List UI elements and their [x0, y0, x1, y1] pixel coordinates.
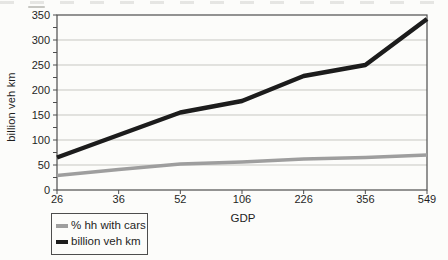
x-tick-label: 106	[233, 193, 251, 205]
y-axis-title: billion veh km	[5, 72, 17, 141]
y-tick-label: 350	[32, 9, 50, 21]
legend-item-hh-with-cars: % hh with cars	[56, 220, 144, 232]
legend-label-hh-with-cars: % hh with cars	[71, 220, 146, 232]
x-axis-title: GDP	[231, 212, 256, 224]
x-tick-label: 356	[356, 193, 374, 205]
chart-figure: 050100150200250300350263652106226356549 …	[0, 0, 448, 260]
y-tick-label: 200	[32, 84, 50, 96]
x-tick-label: 36	[113, 193, 125, 205]
y-tick-label: 300	[32, 34, 50, 46]
y-tick-label: 250	[32, 59, 50, 71]
legend-swatch-hh-with-cars	[56, 224, 68, 228]
x-tick-label: 549	[418, 193, 436, 205]
y-tick-label: 150	[32, 109, 50, 121]
x-tick-label: 26	[51, 193, 63, 205]
legend-label-billion-veh-km: billion veh km	[71, 236, 141, 248]
legend-swatch-billion-veh-km	[56, 240, 68, 244]
y-tick-label: 50	[38, 159, 50, 171]
x-tick-label: 226	[294, 193, 312, 205]
y-tick-label: 100	[32, 134, 50, 146]
x-tick-label: 52	[174, 193, 186, 205]
legend-item-billion-veh-km: billion veh km	[56, 236, 144, 248]
legend: % hh with cars billion veh km	[51, 213, 148, 255]
y-tick-label: 0	[44, 184, 50, 196]
